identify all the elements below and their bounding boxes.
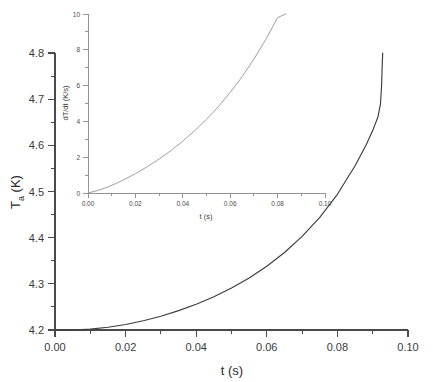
main-y-axis-title-unit: (K) — [8, 175, 23, 192]
main-y-axis-title-base: T — [8, 201, 23, 209]
main-ytick-label: 4.6 — [29, 139, 44, 151]
inset-xtick-label: 0.06 — [224, 200, 237, 207]
inset-xtick-label: 0.00 — [82, 200, 95, 207]
figure-container: 4.2 4.3 4.4 4.5 4.6 4.7 4.8 — [0, 0, 433, 382]
main-xtick-label: 0.08 — [327, 341, 348, 353]
main-xtick-label: 0.04 — [185, 341, 206, 353]
inset-ytick-label: 0 — [76, 190, 80, 197]
inset-ytick-label: 10 — [73, 11, 81, 18]
inset-xtick-label: 0.10 — [319, 200, 332, 207]
main-x-tick-labels: 0.00 0.02 0.04 0.06 0.08 0.10 — [44, 341, 418, 353]
main-ytick-label: 4.5 — [29, 186, 44, 198]
main-xtick-label: 0.06 — [256, 341, 277, 353]
inset-plot: 0 2 4 6 8 10 — [61, 11, 332, 222]
inset-ytick-label: 6 — [76, 82, 80, 89]
main-xtick-label: 0.10 — [397, 341, 418, 353]
inset-ytick-label: 2 — [76, 154, 80, 161]
main-xtick-label: 0.02 — [115, 341, 136, 353]
main-ytick-label: 4.3 — [29, 278, 44, 290]
inset-x-tick-labels: 0.00 0.02 0.04 0.06 0.08 0.10 — [82, 200, 332, 207]
inset-data-curve — [88, 14, 286, 193]
main-ytick-label: 4.4 — [29, 232, 44, 244]
svg-text:Ta (K): Ta (K) — [8, 175, 26, 209]
inset-xtick-label: 0.02 — [129, 200, 142, 207]
main-y-tick-labels: 4.2 4.3 4.4 4.5 4.6 4.7 4.8 — [29, 47, 44, 336]
main-x-axis-title: t (s) — [221, 363, 243, 378]
main-y-axis-title: Ta (K) — [8, 175, 26, 209]
main-data-curve — [55, 53, 383, 330]
main-ytick-label: 4.2 — [29, 324, 44, 336]
main-xtick-label: 0.00 — [44, 341, 65, 353]
main-x-minor-ticks — [90, 330, 372, 334]
inset-y-tick-labels: 0 2 4 6 8 10 — [73, 11, 81, 197]
inset-ytick-label: 8 — [76, 46, 80, 53]
main-y-major-ticks — [48, 53, 55, 330]
inset-xtick-label: 0.08 — [271, 200, 284, 207]
inset-y-axis-title: dT/dt (K/s) — [61, 85, 70, 121]
main-ytick-label: 4.8 — [29, 47, 44, 59]
inset-xtick-label: 0.04 — [176, 200, 189, 207]
inset-ytick-label: 4 — [76, 118, 80, 125]
main-ytick-label: 4.7 — [29, 93, 44, 105]
inset-x-axis-title: t (s) — [200, 212, 213, 221]
chart-canvas: 4.2 4.3 4.4 4.5 4.6 4.7 4.8 — [0, 0, 433, 382]
